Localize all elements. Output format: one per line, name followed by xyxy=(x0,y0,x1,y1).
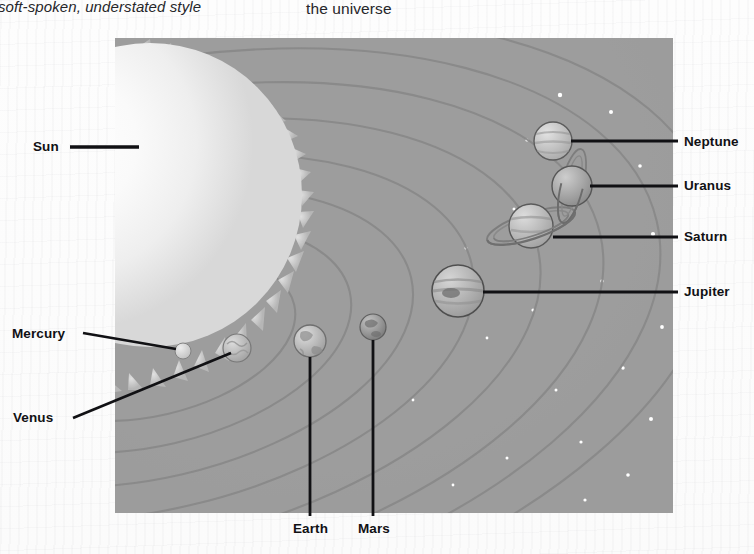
header-right-text: the universe xyxy=(306,0,392,18)
diagram-canvas xyxy=(115,38,673,513)
label-neptune: Neptune xyxy=(684,134,739,149)
label-uranus: Uranus xyxy=(684,178,731,193)
header-left-text: soft-spoken, understated style xyxy=(0,0,201,15)
label-jupiter: Jupiter xyxy=(684,284,730,299)
label-venus: Venus xyxy=(13,410,53,425)
planet-venus xyxy=(223,334,251,362)
label-sun: Sun xyxy=(33,139,59,154)
label-saturn: Saturn xyxy=(684,229,727,244)
great-red-spot xyxy=(442,288,460,298)
label-earth: Earth xyxy=(293,521,328,536)
planet-jupiter xyxy=(432,265,484,317)
planet-mars xyxy=(360,314,386,340)
label-mercury: Mercury xyxy=(12,326,65,341)
planet-mercury xyxy=(175,343,191,359)
solar-system-diagram xyxy=(115,38,673,513)
planet-neptune xyxy=(534,122,572,160)
planet-earth xyxy=(294,325,326,357)
label-mars: Mars xyxy=(358,521,390,536)
